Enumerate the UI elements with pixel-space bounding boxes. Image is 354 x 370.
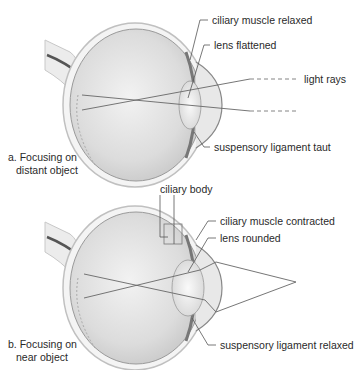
label-ciliary-body: ciliary body (160, 183, 213, 195)
caption-a: a. Focusing on distant object (8, 151, 78, 176)
label-lens-flattened: lens flattened (214, 39, 276, 51)
caption-a-line2: distant object (8, 164, 78, 177)
label-suspensory-ligament-taut: suspensory ligament taut (214, 141, 331, 153)
label-light-rays: light rays (304, 73, 346, 85)
light-ray-b4 (216, 282, 296, 312)
label-ciliary-muscle-contracted: ciliary muscle contracted (220, 215, 335, 227)
leader-ciliary-muscle-a (190, 20, 208, 60)
caption-b-line2: near object (8, 351, 77, 364)
caption-b: b. Focusing on near object (8, 338, 77, 363)
leader-ciliary-muscle-b (196, 221, 216, 240)
caption-b-line1: b. Focusing on (8, 338, 77, 351)
label-lens-rounded: lens rounded (220, 232, 281, 244)
label-suspensory-ligament-relaxed: suspensory ligament relaxed (220, 339, 354, 351)
label-ciliary-muscle-relaxed: ciliary muscle relaxed (212, 14, 312, 26)
light-ray-b3 (216, 262, 296, 282)
caption-a-line1: a. Focusing on (8, 151, 78, 164)
lens-rounded (172, 260, 204, 316)
